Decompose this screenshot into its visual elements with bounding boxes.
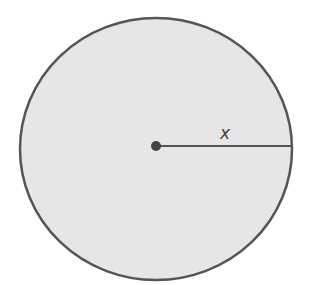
radius-label: x [219,123,231,143]
center-point [151,141,161,151]
circle-diagram: x [0,0,314,285]
diagram-canvas: x [0,0,314,285]
